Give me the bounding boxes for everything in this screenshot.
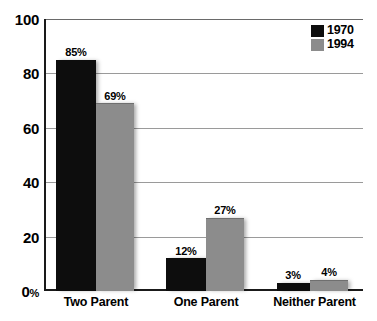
bar-label-1970-two-parent: 85% <box>51 47 101 58</box>
legend-item-1970: 1970 <box>311 24 354 37</box>
bar-1994-one-parent <box>206 218 244 291</box>
y-tick-60: 60 <box>0 121 39 136</box>
legend: 1970 1994 <box>311 24 354 52</box>
legend-label-1970: 1970 <box>327 24 354 37</box>
bar-1994-two-parent <box>96 103 134 291</box>
bar-1970-neither-parent <box>277 283 310 291</box>
y-tick-0-label: 0 <box>21 283 29 300</box>
bar-chart: 100 80 60 40 20 0% 85% 69% 12% <box>0 0 377 321</box>
y-tick-0: 0% <box>0 284 39 299</box>
y-tick-60-label: 60 <box>23 120 39 137</box>
bars-layer: 85% 69% 12% 27% 3% 4% <box>46 19 363 291</box>
bar-1994-neither-parent <box>310 280 348 291</box>
legend-item-1994: 1994 <box>311 38 354 51</box>
y-tick-80: 80 <box>0 66 39 81</box>
bar-label-1994-one-parent: 27% <box>200 205 250 216</box>
category-label-neither-parent: Neither Parent <box>252 296 377 309</box>
bar-label-1970-one-parent: 12% <box>161 246 211 257</box>
y-tick-20-label: 20 <box>23 229 39 246</box>
y-tick-40-label: 40 <box>23 174 39 191</box>
y-tick-100-label: 100 <box>15 11 39 28</box>
bar-label-1994-neither-parent: 4% <box>304 267 354 278</box>
y-tick-40: 40 <box>0 175 39 190</box>
category-label-one-parent: One Parent <box>146 296 266 309</box>
y-tick-100: 100 <box>0 12 39 27</box>
legend-swatch-1994-icon <box>311 39 324 51</box>
category-label-two-parent: Two Parent <box>36 296 156 309</box>
bar-1970-one-parent <box>166 258 206 291</box>
legend-label-1994: 1994 <box>327 38 354 51</box>
y-tick-80-label: 80 <box>23 65 39 82</box>
y-tick-20: 20 <box>0 230 39 245</box>
legend-swatch-1970-icon <box>311 25 324 37</box>
bar-label-1994-two-parent: 69% <box>90 91 140 102</box>
